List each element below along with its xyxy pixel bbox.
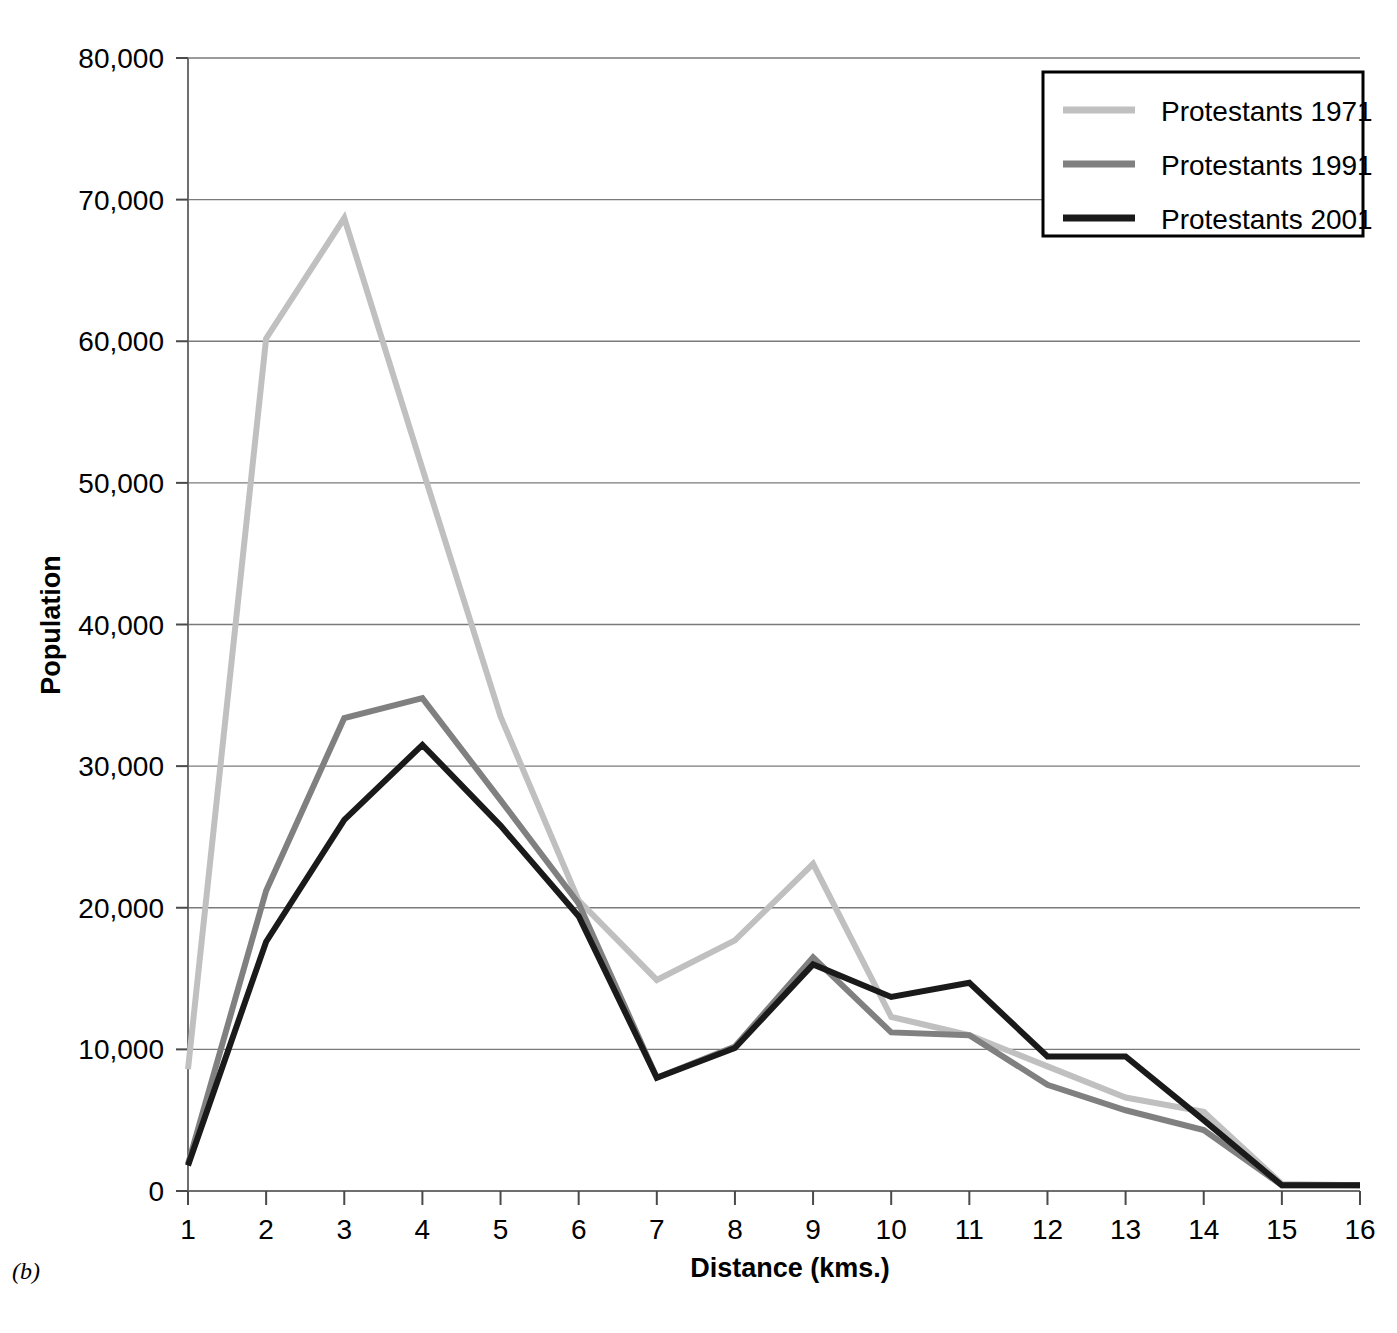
x-axis-tick-labels: 12345678910111213141516 bbox=[180, 1214, 1375, 1245]
x-axis-tick-label: 11 bbox=[955, 1214, 984, 1245]
series-line bbox=[188, 218, 1360, 1185]
x-axis-tick-label: 7 bbox=[649, 1214, 665, 1245]
data-series-group bbox=[188, 218, 1360, 1185]
y-axis-tick-label: 70,000 bbox=[78, 185, 164, 216]
y-axis-title: Population bbox=[36, 555, 66, 694]
y-axis-tick-labels: 010,00020,00030,00040,00050,00060,00070,… bbox=[78, 43, 164, 1207]
series-line bbox=[188, 745, 1360, 1185]
y-axis-tick-label: 0 bbox=[148, 1176, 164, 1207]
legend-label: Protestants 1991 bbox=[1161, 150, 1373, 181]
x-axis-tick-label: 3 bbox=[336, 1214, 352, 1245]
x-axis-ticks bbox=[188, 1191, 1360, 1205]
chart-legend: Protestants 1971Protestants 1991Protesta… bbox=[1043, 72, 1373, 236]
y-axis-tick-label: 30,000 bbox=[78, 751, 164, 782]
x-axis-tick-label: 2 bbox=[258, 1214, 274, 1245]
chart-figure: 010,00020,00030,00040,00050,00060,00070,… bbox=[0, 0, 1397, 1333]
x-axis-tick-label: 1 bbox=[180, 1214, 196, 1245]
x-axis-tick-label: 8 bbox=[727, 1214, 743, 1245]
y-axis-tick-label: 20,000 bbox=[78, 893, 164, 924]
x-axis-tick-label: 4 bbox=[415, 1214, 431, 1245]
y-axis-tick-label: 10,000 bbox=[78, 1034, 164, 1065]
x-axis-tick-label: 9 bbox=[805, 1214, 821, 1245]
x-axis-tick-label: 6 bbox=[571, 1214, 587, 1245]
legend-label: Protestants 1971 bbox=[1161, 96, 1373, 127]
y-axis-ticks bbox=[176, 58, 188, 1191]
series-line bbox=[188, 698, 1360, 1185]
x-axis-tick-label: 5 bbox=[493, 1214, 509, 1245]
y-axis-tick-label: 80,000 bbox=[78, 43, 164, 74]
y-axis-tick-label: 50,000 bbox=[78, 468, 164, 499]
x-axis-title: Distance (kms.) bbox=[690, 1253, 890, 1283]
legend-label: Protestants 2001 bbox=[1161, 204, 1373, 235]
x-axis-tick-label: 15 bbox=[1266, 1214, 1297, 1245]
y-axis-tick-label: 40,000 bbox=[78, 610, 164, 641]
x-axis-tick-label: 14 bbox=[1188, 1214, 1219, 1245]
x-axis-tick-label: 13 bbox=[1110, 1214, 1141, 1245]
x-axis-tick-label: 12 bbox=[1032, 1214, 1063, 1245]
y-axis-tick-label: 60,000 bbox=[78, 326, 164, 357]
panel-caption: (b) bbox=[12, 1258, 40, 1285]
x-axis-tick-label: 16 bbox=[1344, 1214, 1375, 1245]
line-chart: 010,00020,00030,00040,00050,00060,00070,… bbox=[0, 0, 1397, 1333]
x-axis-tick-label: 10 bbox=[876, 1214, 907, 1245]
